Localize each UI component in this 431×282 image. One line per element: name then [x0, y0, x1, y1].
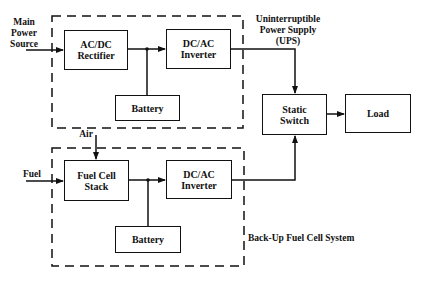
ups-battery-block: Battery: [115, 95, 180, 121]
diagram-canvas: AC/DC Rectifier DC/AC Inverter Battery S…: [0, 0, 431, 282]
air-label: Air: [76, 129, 96, 140]
load-block: Load: [345, 94, 411, 133]
fuel-cell-battery-block: Battery: [115, 226, 181, 253]
ac-dc-rectifier-block: AC/DC Rectifier: [64, 30, 128, 70]
ups-inverter-block: DC/AC Inverter: [166, 29, 231, 69]
fuel-cell-inverter-block: DC/AC Inverter: [166, 160, 232, 199]
main-power-source-label: Main Power Source: [2, 17, 46, 50]
static-switch-block: Static Switch: [262, 94, 327, 135]
fuel-label: Fuel: [22, 169, 42, 180]
fuel-cell-group-label: Back-Up Fuel Cell System: [248, 233, 388, 244]
ups-group-label: Uninterruptible Power Supply (UPS): [243, 14, 333, 47]
fuel-cell-stack-block: Fuel Cell Stack: [64, 160, 129, 201]
